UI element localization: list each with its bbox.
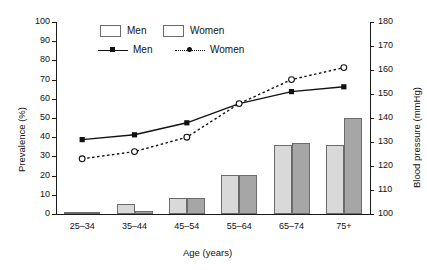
y-axis-right-tick-label: 160	[378, 65, 408, 74]
y-axis-right-tick-label: 180	[378, 17, 408, 26]
legend-marker-men	[110, 47, 115, 52]
y-axis-left-tick-label: 30	[20, 151, 50, 160]
legend-label-women-bar: Women	[190, 26, 224, 36]
marker-women-65–74	[289, 77, 295, 83]
y-axis-left-tick-label: 100	[20, 17, 50, 26]
y-axis-left-tick	[52, 41, 56, 42]
x-axis	[56, 214, 371, 215]
marker-men-45–54	[184, 120, 189, 125]
x-axis-tick-label: 35–44	[109, 221, 161, 231]
y-axis-right-tick	[370, 190, 374, 191]
line-men	[82, 87, 344, 140]
y-axis-right-tick	[370, 70, 374, 71]
y-axis-left	[56, 22, 57, 214]
y-axis-right-tick	[370, 22, 374, 23]
y-axis-left-tick	[52, 137, 56, 138]
y-axis-left-tick	[52, 214, 56, 215]
bar-men-55–64	[221, 175, 239, 214]
y-axis-left-tick-label: 40	[20, 132, 50, 141]
bar-men-25–34	[64, 212, 82, 214]
y-axis-left-tick	[52, 80, 56, 81]
y-axis-right-tick-label: 110	[378, 185, 408, 194]
x-axis-tick-label: 65–74	[266, 221, 318, 231]
marker-women-55–64	[236, 101, 242, 107]
y-axis-left-tick-label: 70	[20, 75, 50, 84]
marker-men-25–34	[80, 137, 85, 142]
x-axis-tick-label: 75+	[318, 221, 370, 231]
x-axis-tick-label: 45–54	[161, 221, 213, 231]
y-axis-left-tick	[52, 156, 56, 157]
y-axis-right-tick-label: 100	[378, 209, 408, 218]
y-axis-left-tick	[52, 176, 56, 177]
bar-women-55–64	[239, 175, 257, 214]
bar-men-45–54	[169, 198, 187, 214]
y-axis-left-tick-label: 90	[20, 36, 50, 45]
y-axis-left-tick	[52, 118, 56, 119]
y-axis-right-tick-label: 150	[378, 89, 408, 98]
y-axis-right-tick	[370, 94, 374, 95]
marker-men-75+	[341, 84, 346, 89]
bar-men-35–44	[117, 204, 135, 214]
y-axis-right-tick	[370, 142, 374, 143]
y-axis-right-tick	[370, 46, 374, 47]
marker-women-25–34	[79, 156, 85, 162]
marker-women-75+	[341, 65, 347, 71]
y-axis-right-tick	[370, 118, 374, 119]
y-axis-left-tick-label: 20	[20, 171, 50, 180]
marker-men-55–64	[237, 101, 242, 106]
y-axis-right-tick	[370, 166, 374, 167]
legend-marker-women	[187, 47, 192, 52]
legend-swatch-men-bar	[100, 25, 121, 37]
y-axis-left-tick-label: 0	[20, 209, 50, 218]
y-axis-left-tick	[52, 60, 56, 61]
y-axis-right-tick-label: 120	[378, 161, 408, 170]
bar-men-75+	[326, 145, 344, 214]
bar-women-35–44	[135, 211, 153, 214]
bar-women-75+	[344, 118, 362, 214]
bar-women-65–74	[292, 143, 310, 214]
marker-men-65–74	[289, 89, 294, 94]
legend-swatch-women-bar	[163, 25, 184, 37]
legend-label-women-line: Women	[210, 45, 244, 55]
y-axis-right-tick-label: 170	[378, 41, 408, 50]
marker-women-35–44	[132, 149, 138, 155]
x-axis-tick-label: 55–64	[213, 221, 265, 231]
y-axis-right-title: Blood pressure (mmHg)	[411, 87, 422, 188]
x-axis-tick-label: 25–34	[56, 221, 108, 231]
y-axis-right-tick-label: 130	[378, 137, 408, 146]
y-axis-left-tick-label: 60	[20, 94, 50, 103]
bar-women-45–54	[187, 198, 205, 214]
y-axis-left-tick	[52, 22, 56, 23]
y-axis-right-tick-label: 140	[378, 113, 408, 122]
x-axis-title: Age (years)	[183, 247, 232, 258]
chart-container: Prevalence (%) Blood pressure (mmHg) Age…	[0, 0, 427, 270]
y-axis-left-tick	[52, 195, 56, 196]
marker-men-35–44	[132, 132, 137, 137]
y-axis-left-tick	[52, 99, 56, 100]
bar-men-65–74	[274, 145, 292, 214]
bar-women-25–34	[82, 212, 100, 214]
y-axis-left-tick-label: 50	[20, 113, 50, 122]
y-axis-right-tick	[370, 214, 374, 215]
legend-label-men-line: Men	[133, 45, 152, 55]
y-axis-left-tick-label: 80	[20, 55, 50, 64]
y-axis-left-tick-label: 10	[20, 190, 50, 199]
marker-women-45–54	[184, 134, 190, 140]
legend-label-men-bar: Men	[127, 26, 146, 36]
